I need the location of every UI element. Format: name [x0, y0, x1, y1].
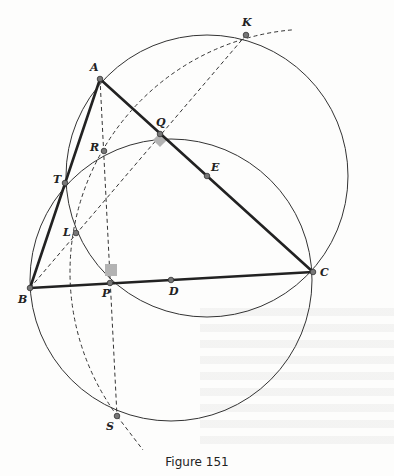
point-A	[97, 76, 103, 82]
label-C: C	[320, 266, 329, 279]
point-Q	[157, 131, 163, 137]
figure-page: AKQRETLCPDBS Figure 151	[0, 0, 394, 476]
point-E	[204, 173, 210, 179]
label-P: P	[101, 287, 111, 300]
right-angle-marker-P	[105, 264, 117, 276]
label-S: S	[106, 420, 114, 433]
dashed-line-AS	[100, 79, 117, 416]
point-C	[310, 269, 316, 275]
point-S	[114, 413, 120, 419]
geometry-diagram: AKQRETLCPDBS	[0, 0, 394, 476]
point-L	[73, 230, 79, 236]
point-B	[27, 285, 33, 291]
label-K: K	[241, 16, 252, 29]
label-Q: Q	[156, 116, 166, 129]
label-A: A	[89, 61, 99, 74]
point-D	[168, 277, 174, 283]
label-B: B	[17, 293, 27, 306]
label-T: T	[53, 173, 62, 186]
label-L: L	[62, 226, 71, 239]
label-D: D	[168, 285, 179, 298]
point-P	[107, 280, 113, 286]
point-T	[62, 180, 68, 186]
point-R	[101, 148, 107, 154]
label-R: R	[89, 141, 99, 154]
dashed-line-Sext	[117, 416, 143, 450]
arc-center-C	[70, 30, 292, 411]
figure-caption: Figure 151	[0, 455, 394, 469]
point-K	[243, 32, 249, 38]
label-E: E	[210, 161, 220, 174]
